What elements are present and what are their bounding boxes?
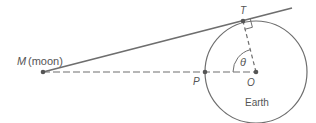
point-p <box>203 70 208 75</box>
point-o <box>254 70 259 75</box>
label-m: M <box>17 55 27 67</box>
label-o: O <box>247 77 255 88</box>
label-t: T <box>240 5 247 16</box>
label-earth: Earth <box>245 97 269 108</box>
point-t <box>241 19 246 24</box>
label-p: P <box>193 76 200 87</box>
tangent-line <box>43 8 292 72</box>
moon-earth-diagram: M (moon) T P O θ Earth <box>0 0 316 123</box>
label-theta: θ <box>240 56 246 68</box>
label-moon: (moon) <box>28 55 63 67</box>
point-m <box>41 70 46 75</box>
